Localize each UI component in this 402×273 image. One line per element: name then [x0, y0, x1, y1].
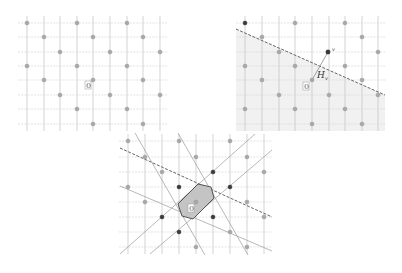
panel-halfspace: v H v 0: [236, 16, 386, 131]
origin-label: 0: [189, 204, 194, 213]
panel1-grid: [18, 16, 168, 131]
hyperplane-subscript: v: [325, 75, 328, 81]
panel-voronoi: 0: [119, 133, 272, 255]
origin-label: 0: [86, 81, 91, 90]
point-v: [326, 50, 330, 54]
lattice-voronoi-diagram: 0: [0, 0, 402, 273]
panel1-lattice-points: [25, 21, 162, 126]
origin-label: 0: [304, 82, 309, 91]
panel-lattice: 0: [18, 16, 168, 131]
point-v-label: v: [332, 46, 335, 52]
hyperplane-label: H: [316, 70, 325, 80]
